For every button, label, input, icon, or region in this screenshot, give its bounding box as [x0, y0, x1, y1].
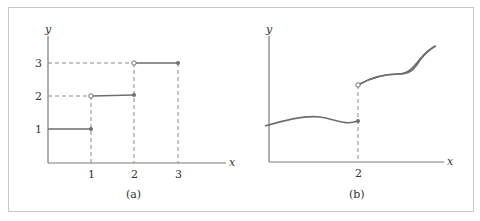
caption-b: (b): [349, 188, 365, 201]
open-dot: [356, 83, 360, 87]
x-axis-label-a: x: [229, 156, 236, 169]
caption-a: (a): [126, 188, 141, 201]
x-tick-1: 1: [88, 168, 95, 181]
closed-dot: [132, 93, 136, 97]
x-tick-2-b: 2: [355, 167, 362, 180]
y-axis-label-a: y: [44, 23, 52, 36]
x-axis-label-b: x: [447, 155, 454, 168]
curve-upper-branch: [358, 48, 433, 85]
open-dot: [132, 61, 136, 65]
y-tick-1: 1: [35, 123, 42, 136]
curve-lower-branch: [265, 117, 358, 126]
closed-dot: [356, 119, 360, 123]
figure-canvas: y x 1 2 3 1 2 3 (a) y x: [0, 0, 480, 221]
closed-dot: [89, 127, 93, 131]
panel-a: y x 1 2 3 1 2 3 (a): [35, 23, 236, 201]
x-tick-2: 2: [131, 168, 138, 181]
y-tick-2: 2: [35, 90, 42, 103]
panel-b: y x 2 (b): [265, 23, 454, 201]
x-tick-3: 3: [175, 168, 182, 181]
y-axis-label-b: y: [265, 23, 273, 36]
open-dot: [89, 94, 93, 98]
closed-dot: [176, 61, 180, 65]
step-2: [92, 95, 134, 96]
y-tick-3: 3: [35, 57, 42, 70]
